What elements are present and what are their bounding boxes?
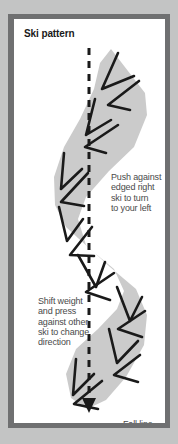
annotation-left: Shift weight and press against other ski… [38,296,110,347]
figure-panel: Ski pattern [14,19,165,423]
figure-page: Ski pattern [0,0,178,444]
ski-track-shape [54,49,147,409]
ski-track-band [54,49,147,409]
fall-line-label: Fall line [123,419,153,423]
annotation-right: Push against edged right ski to turn to … [111,172,165,213]
ski-pattern-diagram [14,19,165,423]
